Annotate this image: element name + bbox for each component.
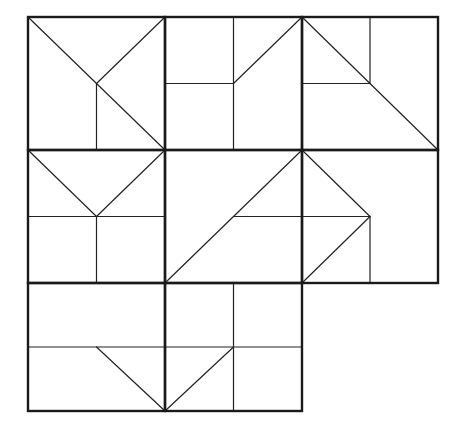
cell-r3c1 — [28, 283, 165, 411]
cell-r2c2 — [165, 150, 302, 283]
inner-segment — [97, 17, 166, 84]
inner-segment — [97, 347, 166, 411]
cell-r1c3 — [302, 17, 438, 150]
cell-r2c3 — [302, 150, 438, 283]
cell-r1c1 — [28, 17, 165, 150]
cell-r1c2 — [165, 17, 302, 150]
cell-r3c2 — [165, 283, 302, 411]
grid-diagram — [0, 0, 461, 426]
inner-segment — [302, 217, 370, 284]
inner-segment — [28, 150, 97, 217]
cells-layer — [28, 17, 438, 411]
inner-segment — [97, 150, 166, 217]
inner-segment — [302, 150, 370, 217]
inner-segment — [234, 17, 303, 84]
cell-r2c1 — [28, 150, 165, 283]
inner-segment — [165, 347, 234, 411]
